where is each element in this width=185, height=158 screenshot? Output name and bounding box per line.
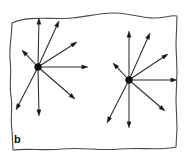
panel-label-b: b bbox=[14, 133, 21, 145]
vector-field-diagram: b bbox=[0, 0, 185, 158]
vector-star-left-center-node bbox=[35, 64, 42, 71]
vector-star-right-center-node bbox=[126, 77, 133, 84]
hand-drawn-frame-border bbox=[10, 13, 177, 150]
figure-panel-b: b bbox=[0, 0, 185, 158]
